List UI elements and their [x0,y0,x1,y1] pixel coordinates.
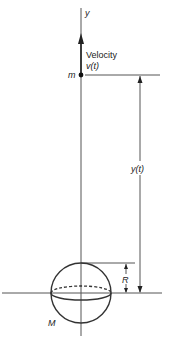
large-mass-label: M [48,318,56,328]
falling-mass-diagram: y Velocity v(t) m y(t) R M [0,0,178,345]
radius-arrow-bottom-icon [124,288,128,293]
height-arrow-top-icon [138,76,143,83]
radius-label: R [122,275,129,285]
height-label: y(t) [130,164,144,174]
velocity-symbol: v(t) [86,61,99,71]
height-arrow-bottom-icon [138,286,143,293]
radius-arrow-top-icon [124,264,128,269]
small-mass-label: m [68,70,76,80]
velocity-label: Velocity [86,50,118,60]
y-axis-label: y [84,8,90,18]
velocity-arrowhead-icon [78,33,84,44]
small-mass-point [79,73,84,78]
